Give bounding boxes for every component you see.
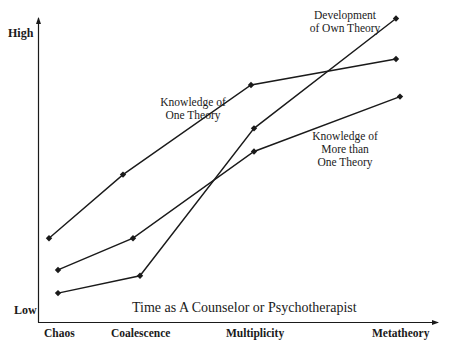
series-line-1: [58, 97, 400, 270]
annotation-knowledge-of-more-than-one-theory: Knowledge of More than One Theory: [300, 130, 390, 169]
annotation-development-of-own-theory: Development of Own Theory: [300, 9, 390, 35]
x-category-chaos: Chaos: [44, 327, 75, 339]
diamond-marker-icon: [55, 290, 61, 296]
x-axis-title: Time as A Counselor or Psychotherapist: [132, 300, 357, 316]
diamond-marker-icon: [55, 267, 61, 273]
x-category-coalescence: Coalescence: [111, 327, 170, 339]
diamond-marker-icon: [397, 93, 403, 99]
y-axis-low-label: Low: [14, 303, 37, 318]
x-category-multiplicity: Multiplicity: [226, 327, 284, 339]
annotation-knowledge-of-one-theory: Knowledge of One Theory: [150, 96, 236, 122]
x-category-metatheory: Metatheory: [372, 327, 429, 339]
y-axis-high-label: High: [8, 26, 33, 41]
diamond-marker-icon: [393, 56, 399, 62]
